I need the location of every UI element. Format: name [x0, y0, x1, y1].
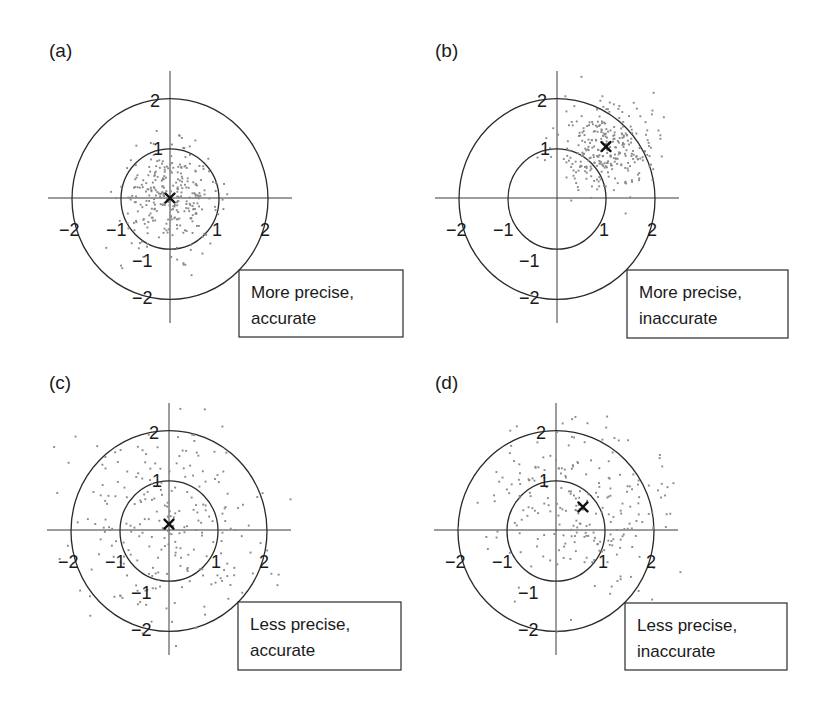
y-tick-neg1-a: −1	[132, 251, 153, 271]
caption-line2-a: accurate	[251, 309, 316, 328]
y-tick-neg1-d: −1	[518, 583, 539, 603]
x-tick-neg2-b: −2	[446, 220, 467, 240]
x-tick-1-a: 1	[212, 220, 222, 240]
panel-label-c: (c)	[49, 372, 71, 393]
panel-d: (d) −2−11221−1−2 Less precise, inaccurat…	[434, 372, 787, 670]
x-tick-neg1-d: −1	[492, 552, 513, 572]
y-tick-1-c: 1	[152, 471, 162, 491]
caption-line1-b: More precise,	[639, 283, 742, 302]
x-tick-neg2-c: −2	[58, 552, 79, 572]
x-tick-2-b: 2	[647, 220, 657, 240]
x-tick-neg1-b: −1	[493, 220, 514, 240]
caption-box-d: Less precise, inaccurate	[625, 603, 787, 670]
x-tick-1-c: 1	[211, 552, 221, 572]
y-tick-2-d: 2	[536, 423, 546, 443]
y-tick-2-b: 2	[537, 91, 547, 111]
y-tick-1-d: 1	[539, 471, 549, 491]
x-tick-2-c: 2	[259, 552, 269, 572]
x-tick-1-b: 1	[599, 220, 609, 240]
y-tick-1-a: 1	[153, 139, 163, 159]
y-tick-neg2-a: −2	[132, 288, 153, 308]
y-tick-1-b: 1	[540, 139, 550, 159]
figure: (a) −2−11221−1−2 More precise, accurate …	[0, 0, 820, 703]
panel-c: (c) −2−11221−1−2 Less precise, accurate	[47, 372, 401, 670]
caption-line1-a: More precise,	[251, 283, 354, 302]
x-tick-1-d: 1	[598, 552, 608, 572]
caption-line1-c: Less precise,	[250, 615, 350, 634]
panel-b: (b) −2−11221−1−2 More precise, inaccurat…	[435, 40, 788, 338]
panel-label-d: (d)	[435, 372, 458, 393]
x-tick-2-a: 2	[260, 220, 270, 240]
caption-line2-c: accurate	[250, 641, 315, 660]
panel-label-a: (a)	[49, 40, 72, 61]
caption-box-a: More precise, accurate	[239, 270, 403, 337]
y-tick-2-c: 2	[149, 423, 159, 443]
caption-line2-d: inaccurate	[637, 642, 715, 661]
panel-a: (a) −2−11221−1−2 More precise, accurate	[48, 40, 403, 337]
y-tick-2-a: 2	[150, 91, 160, 111]
y-tick-neg2-b: −2	[519, 288, 540, 308]
scatter-points-a	[105, 130, 228, 276]
y-tick-neg2-c: −2	[131, 620, 152, 640]
x-tick-neg2-d: −2	[445, 552, 466, 572]
y-tick-neg1-c: −1	[131, 583, 152, 603]
caption-box-c: Less precise, accurate	[238, 602, 401, 670]
x-tick-neg1-a: −1	[106, 220, 127, 240]
caption-line1-d: Less precise,	[637, 616, 737, 635]
x-tick-2-d: 2	[646, 552, 656, 572]
y-tick-neg2-d: −2	[518, 620, 539, 640]
scatter-points-b	[537, 76, 665, 215]
panel-label-b: (b)	[435, 40, 458, 61]
scatter-points-d	[457, 416, 681, 633]
caption-box-b: More precise, inaccurate	[627, 270, 788, 338]
y-tick-neg1-b: −1	[519, 251, 540, 271]
x-tick-neg1-c: −1	[105, 552, 126, 572]
x-tick-neg2-a: −2	[59, 220, 80, 240]
caption-line2-b: inaccurate	[639, 309, 717, 328]
